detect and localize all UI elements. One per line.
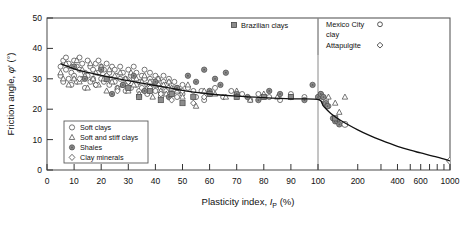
point-soft-clay (66, 76, 71, 81)
y-tick-labels: 01020304050 (33, 13, 43, 175)
point-brazilian-clay (180, 101, 185, 106)
point-brazilian-clay (169, 91, 174, 96)
x-tick-label: 60 (205, 176, 215, 186)
point-soft-clay (175, 95, 180, 100)
y-tick-label: 50 (33, 13, 43, 23)
x-tick-labels: 01020304050607080901002004006001000 (45, 176, 460, 186)
x-tick-label: 90 (286, 176, 296, 186)
y-tick-label: 0 (37, 165, 42, 175)
point-brazilian-clay (191, 94, 196, 99)
point-soft-clay (213, 85, 218, 90)
chart-svg: 01020304050 0102030405060708090100200400… (0, 0, 470, 226)
x-tick-label: 20 (96, 176, 106, 186)
x-tick-label: 0 (45, 176, 50, 186)
point-shale (99, 67, 104, 72)
legend-mexico-line1: Mexico City (326, 20, 364, 29)
point-soft-clay (104, 61, 109, 66)
x-tick-label: 50 (178, 176, 188, 186)
point-shale (201, 67, 206, 72)
point-shale (310, 82, 315, 87)
point-shale (302, 97, 307, 102)
y-tick-label: 30 (33, 74, 43, 84)
point-shale (185, 73, 190, 78)
point-shale (109, 91, 114, 96)
point-soft-clay (80, 61, 85, 66)
chart-figure: 01020304050 0102030405060708090100200400… (0, 0, 470, 226)
legend-attapulgite-label: Attapulgite (326, 41, 361, 50)
point-brazilian-clay (147, 88, 152, 93)
point-brazilian-clay (126, 85, 131, 90)
x-tick-label: 70 (232, 176, 242, 186)
point-soft-clay (267, 95, 272, 100)
legend-brazilian-clays-label: Brazilian clays (241, 21, 289, 30)
point-shale (142, 88, 147, 93)
point-shale (218, 82, 223, 87)
y-tick-label: 40 (33, 43, 43, 53)
x-tick-label: 600 (414, 176, 428, 186)
legend-inner-label: Clay minerals (80, 153, 124, 162)
point-soft-clay (256, 92, 261, 97)
y-axis-title: Friction angle, φ' (°) (5, 52, 16, 135)
point-brazilian-clay (158, 97, 163, 102)
open-circle-icon (69, 125, 74, 130)
point-shale (321, 94, 326, 99)
point-soft-clay (63, 67, 68, 72)
legend-inner-label: Shales (80, 143, 102, 152)
point-soft-clay (131, 64, 136, 69)
point-shale (212, 76, 217, 81)
point-shale (277, 91, 282, 96)
legend-mexico-line2: clay (326, 30, 339, 39)
x-axis-title: Plasticity index, IP (%) (202, 196, 295, 209)
point-soft-clay (96, 58, 101, 63)
x-tick-label: 30 (124, 176, 134, 186)
x-tick-label: 10 (69, 176, 79, 186)
point-shale (193, 79, 198, 84)
point-soft-clay (229, 88, 234, 93)
y-tick-label: 10 (33, 135, 43, 145)
legend-inner-label: Soft and stiff clays (80, 133, 139, 142)
x-tick-label: 80 (259, 176, 269, 186)
point-soft-clay (147, 70, 152, 75)
x-tick-label: 40 (151, 176, 161, 186)
point-soft-clay (118, 64, 123, 69)
point-soft-clay (112, 67, 117, 72)
point-shale (120, 82, 125, 87)
point-shale (267, 88, 272, 93)
filled-square-icon (232, 23, 237, 28)
point-soft-clay (142, 67, 147, 72)
point-brazilian-clay (137, 94, 142, 99)
point-shale (82, 76, 87, 81)
point-shale (223, 70, 228, 75)
x-tick-label: 1000 (441, 176, 460, 186)
point-soft-clay (172, 79, 177, 84)
legend-inner-label: Soft clays (80, 123, 112, 132)
point-shale (256, 97, 261, 102)
filled-circle-icon (69, 145, 74, 150)
point-shale (153, 79, 158, 84)
point-soft-clay (180, 82, 185, 87)
point-soft-clay (153, 88, 158, 93)
point-shale (131, 73, 136, 78)
point-shale (337, 122, 342, 127)
x-tick-label: 200 (351, 176, 365, 186)
point-soft-clay (63, 55, 68, 60)
point-brazilian-clay (234, 94, 239, 99)
legend-brazilian-clays: Brazilian clays (232, 21, 289, 30)
legend-inner: Soft claysSoft and stiff claysShalesClay… (64, 121, 148, 163)
x-tick-label: 400 (390, 176, 404, 186)
y-tick-label: 20 (33, 104, 43, 114)
point-soft-clay (161, 73, 166, 78)
x-tick-label: 100 (311, 176, 325, 186)
